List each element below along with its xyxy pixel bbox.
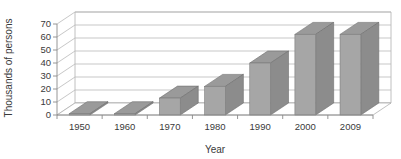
y-axis-tick-label: 20 xyxy=(40,83,51,94)
x-axis-title: Year xyxy=(205,144,226,155)
bar xyxy=(295,22,334,115)
gridline-depth xyxy=(57,25,75,37)
bar-side-face xyxy=(361,22,379,115)
y-axis-tick-label: 30 xyxy=(40,70,51,81)
y-axis-tick-label: 0 xyxy=(46,109,51,120)
y-axis-tick-label: 40 xyxy=(40,57,51,68)
bar-chart: 010203040506070 195019601970198019902000… xyxy=(0,0,401,159)
bar-front-face xyxy=(250,63,271,115)
x-axis-tick-label: 2000 xyxy=(295,121,316,132)
gridline-depth xyxy=(57,38,75,50)
x-axis-tick-label: 1950 xyxy=(69,121,90,132)
depth-connectors xyxy=(57,12,75,115)
x-axis-tick-label: 1960 xyxy=(114,121,135,132)
gridline-depth xyxy=(57,64,75,76)
bar-front-face xyxy=(340,34,361,115)
bar xyxy=(250,51,289,115)
y-axis-tick-label: 10 xyxy=(40,96,51,107)
gridline-depth xyxy=(57,77,75,89)
y-axis: 010203040506070 xyxy=(40,18,57,120)
bar-front-face xyxy=(205,86,226,115)
gridline-depth xyxy=(57,51,75,63)
x-axis-tick-label: 1980 xyxy=(204,121,225,132)
y-axis-tick-label: 50 xyxy=(40,44,51,55)
x-axis-tick-label: 2009 xyxy=(340,121,361,132)
bar-side-face xyxy=(316,22,334,115)
chart-canvas: 010203040506070 195019601970198019902000… xyxy=(0,0,401,159)
x-axis: 1950196019701980199020002009 xyxy=(57,115,373,132)
y-axis-tick-label: 70 xyxy=(40,18,51,29)
bar xyxy=(340,22,379,115)
x-axis-tick-label: 1990 xyxy=(250,121,271,132)
bar-front-face xyxy=(159,98,180,115)
gridline-depth xyxy=(57,12,75,24)
gridline-depth xyxy=(57,90,75,102)
y-axis-title: Thousands of persons xyxy=(3,19,14,118)
x-axis-tick-label: 1970 xyxy=(159,121,180,132)
y-axis-tick-label: 60 xyxy=(40,31,51,42)
bar-front-face xyxy=(295,34,316,115)
